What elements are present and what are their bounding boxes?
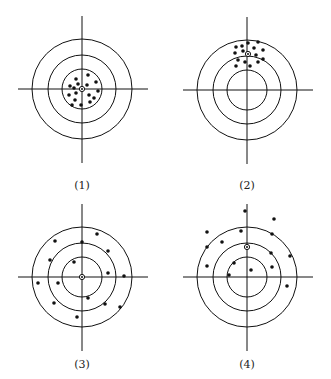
shot-dot (248, 64, 252, 68)
target-label: (3) (62, 359, 102, 371)
shot-dot (205, 264, 209, 268)
shot-dot (122, 274, 126, 278)
shot-dot (236, 58, 240, 62)
shot-dot (220, 240, 224, 244)
shot-dot (48, 258, 52, 262)
target-4 (183, 204, 313, 351)
shot-dot (80, 240, 84, 244)
target-1 (18, 16, 148, 163)
mean-point-center (247, 53, 249, 55)
shot-dot (252, 46, 256, 50)
shot-dot (106, 249, 110, 253)
target-2 (183, 17, 313, 164)
shot-dot (74, 91, 78, 95)
shot-dot (234, 64, 238, 68)
mean-point-center (81, 276, 83, 278)
shot-dot (288, 254, 292, 258)
shot-dot (75, 315, 79, 319)
target-accuracy-precision-figure: (1)(2)(3)(4) (0, 0, 331, 379)
shot-dot (269, 251, 273, 255)
shot-dot (261, 57, 265, 61)
shot-dot (256, 60, 260, 64)
shot-dot (241, 49, 245, 53)
shot-dot (72, 260, 76, 264)
shot-dot (261, 48, 265, 52)
shot-dot (234, 45, 238, 49)
shot-dot (56, 281, 60, 285)
shot-dot (270, 265, 274, 269)
shot-dot (243, 60, 247, 64)
shot-dot (86, 296, 90, 300)
target-label: (1) (62, 180, 102, 192)
shot-dot (96, 89, 100, 93)
target-label: (4) (227, 359, 267, 371)
shot-dot (246, 41, 250, 45)
shot-dot (86, 73, 90, 77)
shot-dot (79, 103, 83, 107)
mean-point-center (246, 246, 248, 248)
shot-dot (239, 229, 243, 233)
shot-dot (53, 239, 57, 243)
shot-dot (256, 40, 260, 44)
shot-dot (85, 83, 89, 87)
shot-dot (227, 273, 231, 277)
shot-dot (95, 232, 99, 236)
shot-dot (94, 80, 98, 84)
shot-dot (103, 302, 107, 306)
shot-dot (72, 86, 76, 90)
shot-dot (243, 209, 247, 213)
shot-dot (285, 284, 289, 288)
shot-dot (240, 44, 244, 48)
shot-dot (118, 305, 122, 309)
shot-dot (36, 281, 40, 285)
target-3 (18, 204, 148, 351)
shot-dot (254, 53, 258, 57)
shot-dot (52, 301, 56, 305)
shot-dot (70, 103, 74, 107)
shot-dot (68, 84, 72, 88)
shot-dot (249, 268, 253, 272)
shot-dot (205, 245, 209, 249)
shot-dot (270, 232, 274, 236)
shot-dot (74, 77, 78, 81)
targets-drawing (0, 0, 331, 379)
shot-dot (272, 217, 276, 221)
shot-dot (87, 93, 91, 97)
shot-dot (205, 230, 209, 234)
shot-dot (73, 98, 77, 102)
target-label: (2) (227, 180, 267, 192)
shot-dot (92, 96, 96, 100)
shot-dot (76, 82, 80, 86)
shot-dot (106, 271, 110, 275)
shot-dot (88, 100, 92, 104)
mean-point-center (81, 88, 83, 90)
shot-dot (233, 51, 237, 55)
shot-dot (232, 261, 236, 265)
shot-dot (67, 93, 71, 97)
